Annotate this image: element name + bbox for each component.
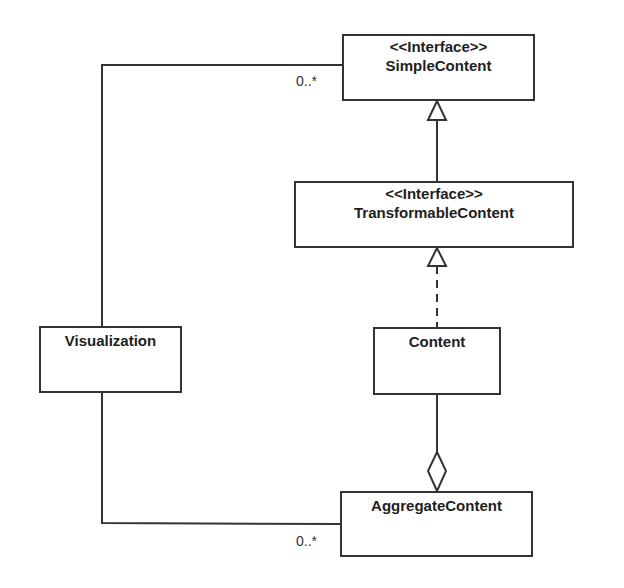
class-aggregatecontent: AggregateContent [340,491,533,557]
aggregation-diamond-icon [428,452,446,491]
class-name: Visualization [41,328,180,350]
stereotype-label: <<Interface>> [296,183,572,203]
class-transformablecontent: <<Interface>> TransformableContent [294,181,574,248]
generalization-arrowhead-icon [428,101,446,120]
association-visualization-aggregatecontent [102,392,341,524]
multiplicity-aggregatecontent: 0..* [296,533,317,549]
class-simplecontent: <<Interface>> SimpleContent [342,34,535,101]
class-name: Content [375,329,499,351]
class-name: TransformableContent [296,203,572,222]
class-visualization: Visualization [39,326,182,393]
multiplicity-simplecontent: 0..* [296,73,317,89]
class-name: SimpleContent [344,56,533,75]
stereotype-label: <<Interface>> [344,36,533,56]
class-name: AggregateContent [342,493,531,515]
realization-arrowhead-icon [428,248,446,266]
class-content: Content [373,327,501,395]
